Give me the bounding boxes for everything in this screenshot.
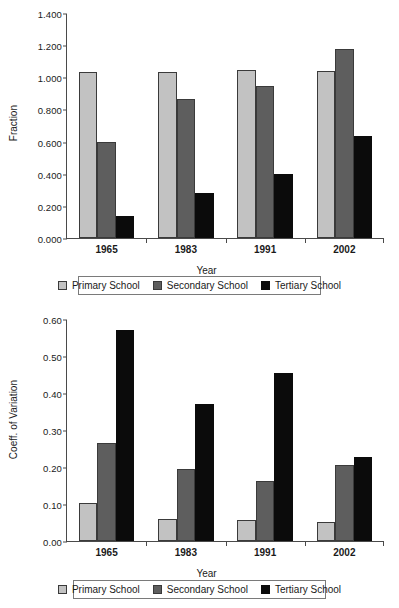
primary-school-swatch	[58, 281, 67, 290]
coeff-variation-chart-x-tick-label: 1991	[254, 547, 276, 558]
coeff-variation-chart-y-axis-label: Coeff. of Variation	[8, 380, 19, 459]
bar-secondary-school-2002	[335, 49, 354, 238]
two-panel-bar-chart-figure: Fraction 0.0000.2000.4000.6000.8001.0001…	[0, 0, 399, 608]
fraction-chart-y-tick-mark	[63, 206, 67, 207]
fraction-chart-x-tick-mark	[305, 238, 306, 243]
bar-secondary-school-1991	[256, 86, 275, 238]
coeff-variation-chart-y-tick-mark	[63, 431, 67, 432]
fraction-chart-y-tick-mark	[63, 174, 67, 175]
bar-tertiary-school-1965	[116, 330, 135, 541]
fraction-chart-y-tick-mark	[63, 78, 67, 79]
fraction-chart-y-tick-mark	[63, 239, 67, 240]
fraction-chart-x-tick-label: 1991	[254, 244, 276, 255]
fraction-chart-y-tick-mark	[63, 110, 67, 111]
fraction-chart-x-tick-mark	[383, 238, 384, 243]
secondary-school-swatch	[153, 281, 162, 290]
coeff-variation-chart-x-tick-label: 2002	[333, 547, 355, 558]
bar-tertiary-school-2002	[354, 457, 373, 541]
coeff-variation-chart-y-tick-mark	[63, 394, 67, 395]
coeff-variation-chart-x-tick-label: 1965	[96, 547, 118, 558]
fraction-chart-x-axis-label: Year	[30, 265, 383, 276]
bar-primary-school-2002	[317, 522, 336, 541]
bar-primary-school-1983	[158, 519, 177, 541]
coeff-variation-chart-y-tick-mark	[63, 357, 67, 358]
coeff-variation-chart-x-axis-label: Year	[30, 568, 383, 579]
fraction-chart-x-tick-label: 1983	[175, 244, 197, 255]
coeff-variation-chart-x-tick-mark	[305, 541, 306, 546]
fraction-chart-x-tick-mark	[226, 238, 227, 243]
bar-primary-school-2002	[317, 71, 336, 238]
bar-tertiary-school-1965	[116, 216, 135, 238]
coeff-variation-chart-x-tick-mark	[226, 541, 227, 546]
coeff-variation-chart-y-tick-mark	[63, 468, 67, 469]
coeff-variation-chart-legend: Primary SchoolSecondary SchoolTertiary S…	[73, 580, 326, 599]
legend-label: Secondary School	[167, 584, 248, 595]
legend-item-tertiary-school[interactable]: Tertiary School	[261, 584, 341, 595]
coeff-variation-chart: Coeff. of Variation 0.000.100.200.300.40…	[0, 300, 399, 608]
fraction-chart-x-tick-label: 2002	[333, 244, 355, 255]
legend-label: Primary School	[72, 280, 140, 291]
legend-label: Primary School	[72, 584, 140, 595]
legend-item-secondary-school[interactable]: Secondary School	[153, 280, 248, 291]
bar-tertiary-school-1983	[195, 193, 214, 238]
fraction-chart-legend: Primary SchoolSecondary SchoolTertiary S…	[78, 276, 321, 295]
coeff-variation-chart-y-tick-mark	[63, 505, 67, 506]
bar-primary-school-1965	[79, 72, 98, 238]
legend-label: Tertiary School	[275, 280, 341, 291]
fraction-chart-plot-area: 0.0000.2000.4000.6000.8001.0001.2001.400…	[66, 14, 383, 239]
bar-primary-school-1991	[237, 70, 256, 238]
coeff-variation-chart-x-tick-mark	[383, 541, 384, 546]
bar-secondary-school-2002	[335, 465, 354, 541]
bar-secondary-school-1983	[177, 469, 196, 541]
bar-secondary-school-1965	[97, 443, 116, 541]
bar-secondary-school-1983	[177, 99, 196, 238]
fraction-chart-x-tick-mark	[146, 238, 147, 243]
legend-item-primary-school[interactable]: Primary School	[58, 584, 140, 595]
fraction-chart-y-tick-mark	[63, 142, 67, 143]
legend-item-tertiary-school[interactable]: Tertiary School	[261, 280, 341, 291]
legend-label: Tertiary School	[275, 584, 341, 595]
bar-secondary-school-1965	[97, 142, 116, 238]
bar-primary-school-1991	[237, 520, 256, 541]
bar-secondary-school-1991	[256, 481, 275, 541]
bar-primary-school-1983	[158, 72, 177, 238]
legend-item-secondary-school[interactable]: Secondary School	[153, 584, 248, 595]
legend-label: Secondary School	[167, 280, 248, 291]
bar-tertiary-school-1991	[274, 373, 293, 541]
bar-tertiary-school-2002	[354, 136, 373, 238]
fraction-chart-y-tick-mark	[63, 14, 67, 15]
fraction-chart-y-axis-label: Fraction	[8, 105, 19, 141]
coeff-variation-chart-y-tick-mark	[63, 542, 67, 543]
secondary-school-swatch	[153, 585, 162, 594]
bar-primary-school-1965	[79, 503, 98, 541]
fraction-chart-y-tick-mark	[63, 46, 67, 47]
fraction-chart: Fraction 0.0000.2000.4000.6000.8001.0001…	[0, 0, 399, 300]
bar-tertiary-school-1991	[274, 174, 293, 238]
bar-tertiary-school-1983	[195, 404, 214, 541]
fraction-chart-x-tick-label: 1965	[96, 244, 118, 255]
primary-school-swatch	[58, 585, 67, 594]
tertiary-school-swatch	[261, 585, 270, 594]
legend-item-primary-school[interactable]: Primary School	[58, 280, 140, 291]
coeff-variation-chart-y-tick-mark	[63, 320, 67, 321]
tertiary-school-swatch	[261, 281, 270, 290]
coeff-variation-chart-plot-area: 0.000.100.200.300.400.500.60 19651983199…	[66, 320, 383, 542]
coeff-variation-chart-x-tick-mark	[146, 541, 147, 546]
coeff-variation-chart-x-tick-label: 1983	[175, 547, 197, 558]
